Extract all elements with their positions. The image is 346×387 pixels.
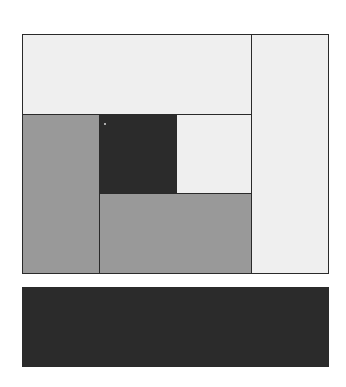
marker-dot [104,123,106,125]
block-center-dark [99,114,177,194]
block-bottom-bar-dark [22,287,329,367]
block-right-tall [251,34,329,274]
block-left-gray [22,114,100,274]
block-bottom-gray [99,193,252,274]
block-top-wide [22,34,252,115]
block-center-right-light [176,114,252,194]
